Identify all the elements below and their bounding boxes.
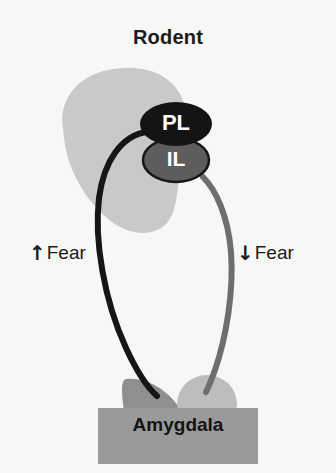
amygdala-label: Amygdala bbox=[98, 414, 258, 436]
rodent-fear-circuit-diagram: Rodent PL IL ↑ Fear ↓ Fear Amygdala bbox=[0, 0, 336, 473]
fear-decrease-label: Fear bbox=[255, 242, 294, 264]
arrow-up-icon: ↑ bbox=[29, 243, 46, 263]
fear-increase-annotation: ↑ Fear bbox=[29, 242, 86, 264]
diagram-canvas bbox=[0, 0, 336, 473]
fear-increase-label: Fear bbox=[47, 242, 86, 264]
il-to-amygdala-pathway bbox=[203, 177, 232, 392]
arrow-down-icon: ↓ bbox=[237, 243, 254, 263]
pl-region-shape bbox=[140, 102, 212, 146]
figure-title: Rodent bbox=[0, 26, 336, 49]
fear-decrease-annotation: ↓ Fear bbox=[237, 242, 294, 264]
